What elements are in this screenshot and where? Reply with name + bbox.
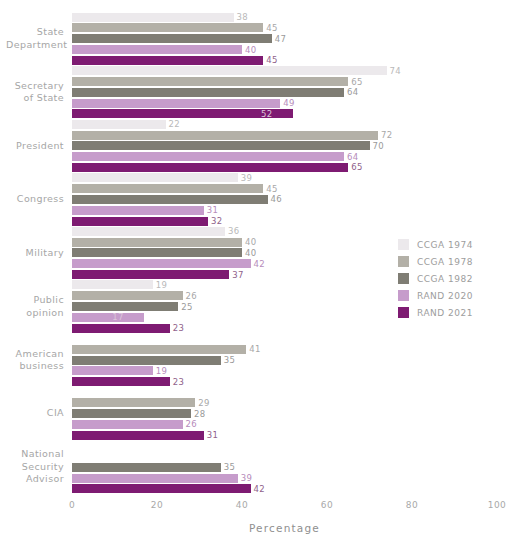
x-axis-tick-label: 0	[69, 500, 75, 510]
bar-value-label: 38	[237, 13, 248, 22]
bar-row: 74	[72, 66, 497, 75]
bar	[72, 195, 268, 204]
bar-value-label: 64	[347, 152, 358, 161]
bar-value-label: 45	[266, 56, 277, 65]
bar-value-label: 26	[186, 291, 197, 300]
bar	[72, 99, 280, 108]
legend-swatch	[398, 273, 409, 284]
y-axis-label: Military	[6, 247, 64, 260]
bar-row: 45	[72, 184, 497, 193]
y-axis-label: State Department	[6, 26, 64, 51]
bar-value-label: 41	[249, 345, 260, 354]
bar	[72, 431, 204, 440]
bar	[72, 398, 195, 407]
legend-item[interactable]: CCGA 1974	[398, 236, 518, 253]
bar	[72, 259, 251, 268]
bar-row: 46	[72, 195, 497, 204]
bar-value-label: 49	[283, 99, 294, 108]
bar-row: 49	[72, 99, 497, 108]
bar-value-label: 25	[181, 302, 192, 311]
bar	[72, 291, 183, 300]
legend-swatch	[398, 239, 409, 250]
bar-value-label: 23	[173, 324, 184, 333]
bar-row: 35	[72, 356, 497, 365]
legend-item[interactable]: RAND 2021	[398, 304, 518, 321]
legend-label: CCGA 1978	[417, 257, 473, 267]
x-axis-tick-label: 80	[406, 500, 418, 510]
legend-label: RAND 2021	[417, 308, 473, 318]
legend-item[interactable]: CCGA 1978	[398, 253, 518, 270]
legend-label: CCGA 1982	[417, 274, 473, 284]
legend-item[interactable]: RAND 2020	[398, 287, 518, 304]
bar-value-label: 45	[266, 24, 277, 33]
bar-value-label: 42	[254, 259, 265, 268]
bar-row: 39	[72, 474, 497, 483]
bar	[72, 313, 144, 322]
bar	[72, 484, 251, 493]
x-axis-title: Percentage	[72, 522, 497, 534]
bar-row: 22	[72, 120, 497, 129]
bar-row: 29	[72, 398, 497, 407]
bar	[72, 270, 229, 279]
bar-row: 47	[72, 34, 497, 43]
bar-chart: State DepartmentSecretary of StatePresid…	[0, 0, 523, 553]
bar-value-label: 32	[211, 217, 222, 226]
bar-value-label: 45	[266, 184, 277, 193]
x-axis-tick-label: 60	[321, 500, 333, 510]
bar	[72, 377, 170, 386]
bar-value-label: 72	[381, 131, 392, 140]
bar-value-label: 28	[194, 409, 205, 418]
bar-value-label: 31	[207, 431, 218, 440]
bar	[72, 302, 178, 311]
bar-value-label: 29	[198, 398, 209, 407]
bar-value-label: 52	[261, 109, 272, 118]
bar-row: 64	[72, 152, 497, 161]
bar	[72, 227, 225, 236]
bar-value-label: 65	[351, 163, 362, 172]
bar	[72, 238, 242, 247]
bar-row: 35	[72, 463, 497, 472]
bar-value-label: 47	[275, 34, 286, 43]
bar-value-label: 17	[112, 313, 123, 322]
bar	[72, 34, 272, 43]
bar-value-label: 46	[271, 195, 282, 204]
bar-row: 52	[72, 109, 497, 118]
y-axis-label: Public opinion	[6, 294, 64, 319]
y-axis-label: National Security Advisor	[6, 448, 64, 486]
bar	[72, 463, 221, 472]
y-axis-label: CIA	[6, 407, 64, 420]
bar	[72, 109, 293, 118]
bar	[72, 152, 344, 161]
bar-group: 7465644952	[72, 66, 497, 118]
legend-item[interactable]: CCGA 1982	[398, 270, 518, 287]
bar-value-label: 35	[224, 463, 235, 472]
bar-value-label: 36	[228, 227, 239, 236]
bar-row: 31	[72, 206, 497, 215]
bar	[72, 366, 153, 375]
bar-value-label: 64	[347, 88, 358, 97]
bar	[72, 420, 183, 429]
bar-row: 19	[72, 366, 497, 375]
bar	[72, 474, 238, 483]
bar-value-label: 40	[245, 249, 256, 257]
y-axis-label: President	[6, 140, 64, 153]
bar-value-label: 65	[351, 77, 362, 86]
bar-row: 38	[72, 13, 497, 22]
bar-value-label: 40	[245, 45, 256, 54]
bar-row: 39	[72, 173, 497, 182]
bar-row: 45	[72, 56, 497, 65]
y-axis-label: Congress	[6, 193, 64, 206]
bar-row: 23	[72, 377, 497, 386]
bar	[72, 88, 344, 97]
bar	[72, 324, 170, 333]
bar-row: 64	[72, 88, 497, 97]
bar	[72, 184, 263, 193]
bar	[72, 13, 234, 22]
x-axis-tick-label: 20	[151, 500, 163, 510]
bar-value-label: 39	[241, 173, 252, 182]
bar-value-label: 19	[156, 366, 167, 375]
bar-value-label: 26	[186, 420, 197, 429]
legend: CCGA 1974CCGA 1978CCGA 1982RAND 2020RAND…	[398, 236, 518, 321]
bar-row: 23	[72, 324, 497, 333]
bar-row: 72	[72, 131, 497, 140]
